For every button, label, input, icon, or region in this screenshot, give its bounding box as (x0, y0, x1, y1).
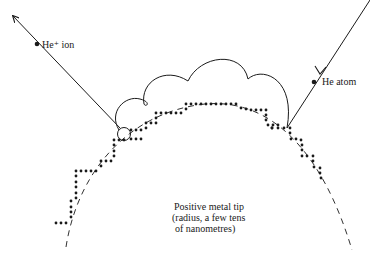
atom-dot (312, 80, 317, 85)
ion-dot (35, 42, 40, 47)
tip-label-line3: of nanometres) (175, 223, 235, 234)
atom-trajectory-arrow (287, 0, 370, 128)
hopping-path (115, 59, 288, 130)
he-ion-label: He⁺ ion (42, 39, 74, 50)
field-ion-microscope-diagram: He⁺ ion He atom Positive metal tip (radi… (0, 0, 370, 253)
ion-trajectory-arrow (13, 16, 120, 128)
he-atom-label: He atom (322, 76, 356, 87)
tip-label-line1: Positive metal tip (174, 201, 244, 212)
tip-label-line2: (radius, a few tens (172, 212, 245, 223)
